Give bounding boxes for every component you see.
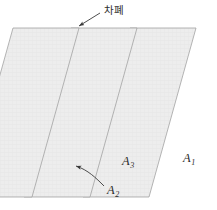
plane-label-a1-subscript: 1 <box>191 158 195 167</box>
plane-label-a3-subscript: 3 <box>130 161 134 170</box>
plane-label-a3-base: A <box>122 154 130 168</box>
plane-label-a2: A2 <box>107 184 119 197</box>
figure-container: 차폐 A1 A3 A2 <box>0 0 217 210</box>
shielding-arrow <box>79 13 100 26</box>
shielding-planes-diagram <box>0 0 217 210</box>
plane-label-a1-base: A <box>183 151 191 165</box>
plane-label-a2-base: A <box>107 183 115 197</box>
shielding-label: 차폐 <box>104 5 125 16</box>
plane-label-a1: A1 <box>183 152 195 165</box>
plane-label-a3: A3 <box>122 155 134 168</box>
plane-label-a2-subscript: 2 <box>115 190 119 199</box>
